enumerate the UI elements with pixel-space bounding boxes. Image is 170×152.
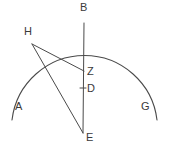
geometry-canvas <box>0 0 170 152</box>
vertex-label-E: E <box>86 132 93 143</box>
vertex-label-A: A <box>15 101 22 112</box>
vertex-label-H: H <box>24 26 32 37</box>
vertex-label-D: D <box>87 83 95 94</box>
segment-B-E <box>83 23 84 133</box>
geometry-figure: B H Z D A G E <box>0 0 170 152</box>
vertex-label-B: B <box>80 2 87 13</box>
vertex-label-G: G <box>141 101 150 112</box>
vertex-label-Z: Z <box>87 66 94 77</box>
